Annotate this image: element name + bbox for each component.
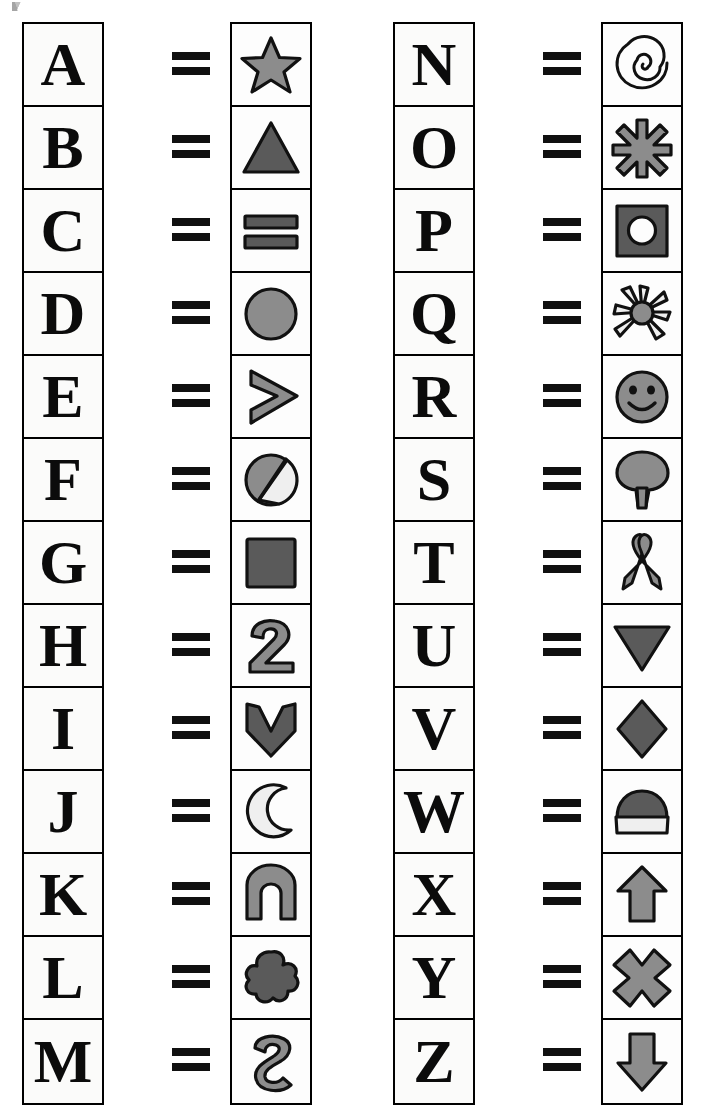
symbol-cell-n (603, 24, 681, 107)
letter-cell-p: P (395, 190, 473, 273)
equals-icon (543, 549, 581, 574)
sun-flower-icon (610, 282, 674, 346)
equals-slot (150, 271, 232, 354)
equals-icon (543, 1047, 581, 1072)
two-bars-icon (239, 199, 303, 263)
equals-icon (172, 964, 210, 989)
letter-glyph: A (41, 33, 86, 95)
symbol-cell-b (232, 107, 310, 190)
letter-cell-d: D (24, 273, 102, 356)
equals-icon (172, 549, 210, 574)
symbol-cell-u (603, 605, 681, 688)
cross-x-icon (610, 946, 674, 1010)
symbol-cell-o (603, 107, 681, 190)
equals-slot (521, 188, 603, 271)
equals-slot (521, 769, 603, 852)
letter-cell-s: S (395, 439, 473, 522)
equals-slot (521, 520, 603, 603)
equals-column (521, 22, 603, 1101)
letter-glyph: C (41, 199, 86, 261)
letter-glyph: K (39, 863, 87, 925)
equals-slot (150, 603, 232, 686)
square-hole-icon (610, 199, 674, 263)
letter-cell-a: A (24, 24, 102, 107)
symbol-cell-j (232, 771, 310, 854)
arrow-down-icon (610, 1030, 674, 1094)
equals-slot (521, 105, 603, 188)
symbol-cell-a (232, 24, 310, 107)
equals-slot (521, 935, 603, 1018)
equals-slot (521, 271, 603, 354)
letter-glyph: H (39, 614, 87, 676)
equals-slot (150, 354, 232, 437)
equals-slot (150, 1018, 232, 1101)
symbol-cell-p (603, 190, 681, 273)
letter-cell-f: F (24, 439, 102, 522)
equals-icon (172, 300, 210, 325)
letter-cell-g: G (24, 522, 102, 605)
asterisk-icon (610, 116, 674, 180)
equals-icon (172, 466, 210, 491)
equals-icon (172, 798, 210, 823)
equals-icon (543, 466, 581, 491)
equals-slot (150, 22, 232, 105)
letter-glyph: I (51, 697, 75, 759)
equals-icon (172, 715, 210, 740)
equals-icon (172, 383, 210, 408)
shield-notch-icon (239, 697, 303, 761)
symbol-cell-e (232, 356, 310, 439)
equals-slot (150, 686, 232, 769)
letter-cell-m: M (24, 1020, 102, 1103)
letter-strip: ABCDEFGHIJKLM (22, 22, 104, 1105)
ribbon-icon (610, 531, 674, 595)
letter-cell-b: B (24, 107, 102, 190)
symbol-cell-c (232, 190, 310, 273)
letter-glyph: R (412, 365, 457, 427)
equals-icon (172, 217, 210, 242)
arrow-up-icon (610, 863, 674, 927)
letter-cell-e: E (24, 356, 102, 439)
letter-glyph: L (42, 946, 83, 1008)
letter-cell-k: K (24, 854, 102, 937)
letter-cell-h: H (24, 605, 102, 688)
letter-cell-y: Y (395, 937, 473, 1020)
letter-cell-t: T (395, 522, 473, 605)
equals-slot (150, 935, 232, 1018)
equals-icon (172, 1047, 210, 1072)
symbol-cell-x (603, 854, 681, 937)
equals-slot (150, 520, 232, 603)
letter-glyph: J (48, 780, 79, 842)
equals-icon (543, 715, 581, 740)
symbol-cell-v (603, 688, 681, 771)
symbol-cell-s (603, 439, 681, 522)
symbol-cell-q (603, 273, 681, 356)
spiral-icon (610, 33, 674, 97)
letter-cell-c: C (24, 190, 102, 273)
equals-icon (543, 632, 581, 657)
letter-glyph: B (42, 116, 83, 178)
equals-slot (150, 769, 232, 852)
letter-cell-i: I (24, 688, 102, 771)
equals-slot (150, 105, 232, 188)
letter-glyph: O (410, 116, 458, 178)
symbol-strip (601, 22, 683, 1105)
symbol-cell-i (232, 688, 310, 771)
letter-glyph: X (412, 863, 457, 925)
letter-glyph: T (413, 531, 454, 593)
letter-glyph: V (412, 697, 457, 759)
letter-cell-l: L (24, 937, 102, 1020)
equals-icon (172, 632, 210, 657)
equals-slot (150, 852, 232, 935)
smiley-face-icon (610, 365, 674, 429)
symbol-cell-z (603, 1020, 681, 1103)
symbol-cell-h (232, 605, 310, 688)
symbol-cell-t (603, 522, 681, 605)
letter-cell-z: Z (395, 1020, 473, 1103)
equals-icon (543, 383, 581, 408)
equals-icon (543, 217, 581, 242)
letter-glyph: G (39, 531, 87, 593)
symbol-cell-w (603, 771, 681, 854)
symbol-cell-f (232, 439, 310, 522)
symbol-strip (230, 22, 312, 1105)
